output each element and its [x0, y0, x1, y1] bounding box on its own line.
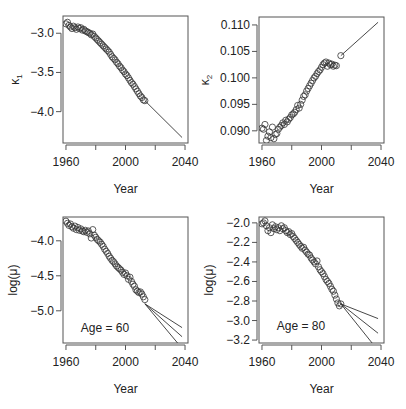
x-tick-label: 1960: [249, 355, 276, 369]
forecast-line: [145, 304, 182, 328]
data-point: [330, 288, 336, 294]
x-tick-label: 1960: [53, 355, 80, 369]
figure-canvas: 196020002040Year−3.0−3.5−4.0κ1 196020002…: [0, 0, 406, 409]
x-tick-label: 2000: [308, 155, 335, 169]
y-tick-label: −2.2: [226, 235, 250, 249]
data-point: [338, 53, 344, 59]
mortality-forecast-figure: 196020002040Year−3.0−3.5−4.0κ1 196020002…: [0, 0, 406, 409]
y-tick-label: −4.0: [30, 234, 54, 248]
forecast-line: [145, 304, 178, 343]
panel-age80: 196020002040Year−2.0−2.2−2.4−2.6−2.8−3.0…: [202, 216, 395, 396]
x-tick-label: 1960: [249, 155, 276, 169]
x-tick-label: 2000: [308, 355, 335, 369]
data-point: [332, 292, 338, 298]
y-tick-label: 0.105: [220, 44, 250, 58]
age-annotation: Age = 60: [81, 321, 130, 335]
forecast-line: [145, 101, 182, 138]
y-tick-label: −5.0: [30, 304, 54, 318]
y-axis-label: κ1: [8, 74, 24, 85]
plot-frame: [259, 17, 384, 143]
age-annotation: Age = 80: [277, 319, 326, 333]
x-axis-label: Year: [309, 182, 333, 196]
y-tick-label: −2.8: [226, 294, 250, 308]
data-point: [274, 130, 280, 136]
x-tick-label: 2000: [112, 355, 139, 369]
y-tick-label: −3.5: [30, 65, 54, 79]
y-tick-label: −4.5: [30, 269, 54, 283]
y-tick-label: 0.110: [221, 18, 250, 32]
y-tick-label: 0.090: [220, 124, 250, 138]
x-axis-label: Year: [113, 382, 137, 396]
panel-kappa2: 196020002040Year0.0900.0950.1000.1050.11…: [198, 17, 395, 196]
data-point: [333, 296, 339, 302]
y-axis-label: log(μ): [6, 265, 20, 296]
panel-kappa1: 196020002040Year−3.0−3.5−4.0κ1: [8, 16, 199, 196]
y-tick-label: −3.0: [30, 26, 54, 40]
y-axis-label: log(μ): [202, 265, 216, 296]
data-point: [269, 124, 275, 130]
y-tick-label: 0.100: [220, 71, 250, 85]
data-point: [63, 218, 69, 224]
x-tick-label: 2040: [172, 355, 199, 369]
x-tick-label: 2040: [368, 155, 395, 169]
y-tick-label: −3.2: [226, 333, 250, 347]
plot-area: [63, 19, 182, 137]
x-tick-label: 2040: [172, 155, 199, 169]
forecast-line: [341, 304, 378, 333]
data-point: [277, 124, 283, 130]
data-point: [315, 68, 321, 74]
y-tick-label: 0.095: [220, 97, 250, 111]
x-tick-label: 2000: [112, 155, 139, 169]
data-point: [302, 92, 308, 98]
panel-age60: 196020002040Year−4.0−4.5−5.0log(μ)Age = …: [6, 217, 199, 396]
x-axis-label: Year: [309, 382, 333, 396]
y-tick-label: −2.6: [226, 274, 250, 288]
y-axis-label: κ2: [198, 74, 214, 85]
plot-area: [259, 22, 378, 143]
y-tick-label: −2.0: [226, 216, 250, 230]
x-tick-label: 2040: [368, 355, 395, 369]
y-tick-label: −2.4: [226, 255, 250, 269]
x-axis-label: Year: [113, 182, 137, 196]
y-tick-label: −3.0: [226, 314, 250, 328]
forecast-line: [341, 22, 378, 55]
forecast-line: [145, 304, 182, 337]
y-tick-label: −4.0: [30, 105, 54, 119]
x-tick-label: 1960: [53, 155, 80, 169]
